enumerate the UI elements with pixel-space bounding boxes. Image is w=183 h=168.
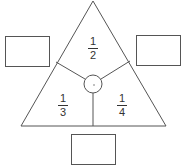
numerator: 1 (115, 93, 129, 104)
denominator: 2 (86, 50, 100, 61)
numerator: 1 (86, 36, 100, 47)
center-circle (84, 75, 102, 93)
spoke-left (56, 62, 85, 79)
denominator: 3 (56, 107, 70, 118)
fraction-bottom-right: 1 4 (115, 93, 129, 118)
answer-box-right[interactable] (137, 36, 181, 66)
answer-box-left[interactable] (6, 37, 50, 67)
answer-box-bottom[interactable] (72, 135, 116, 165)
numerator: 1 (56, 93, 70, 104)
fraction-top: 1 2 (86, 36, 100, 61)
fraction-bottom-left: 1 3 (56, 93, 70, 118)
denominator: 4 (115, 107, 129, 118)
diagram-canvas (0, 0, 183, 168)
center-dot (93, 84, 94, 85)
spoke-right (101, 61, 130, 79)
